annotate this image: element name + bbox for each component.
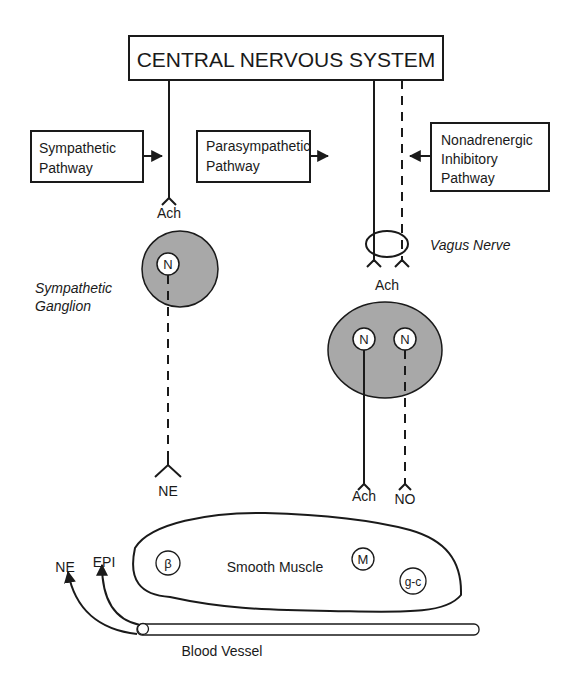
sympathetic-label-1: Sympathetic xyxy=(39,140,116,156)
svg-text:Nonadrenergic: Nonadrenergic xyxy=(441,132,533,148)
svg-text:Pathway: Pathway xyxy=(441,170,495,186)
ach-vagus-label: Ach xyxy=(375,277,399,293)
sympathetic-ganglion-label-1: Sympathetic xyxy=(35,280,112,296)
sympathetic-ganglion: N NE Sympathetic Ganglion xyxy=(35,231,218,499)
vagus-nerve-label: Vagus Nerve xyxy=(430,237,511,253)
sympathetic-ganglion-label-2: Ganglion xyxy=(35,298,91,314)
svg-text:N: N xyxy=(359,332,368,347)
sympathetic-label-2: Pathway xyxy=(39,160,93,176)
parasympathetic-ganglion: N N Ach NO xyxy=(328,302,442,507)
svg-text:N: N xyxy=(163,257,172,272)
svg-text:N: N xyxy=(400,332,409,347)
smooth-muscle-label: Smooth Muscle xyxy=(227,559,324,575)
cns-box: CENTRAL NERVOUS SYSTEM xyxy=(129,36,443,80)
epi-circulating-label: EPI xyxy=(93,554,116,570)
svg-text:g-c: g-c xyxy=(405,575,422,589)
ne-synapse-icon xyxy=(155,458,181,477)
no-terminal-label: NO xyxy=(395,491,416,507)
no-synapse-icon xyxy=(399,484,411,490)
svg-text:Pathway: Pathway xyxy=(206,158,260,174)
cns-title: CENTRAL NERVOUS SYSTEM xyxy=(137,48,436,71)
ach-sympathetic-label: Ach xyxy=(157,205,181,221)
svg-text:β: β xyxy=(164,556,171,571)
autonomic-innervation-diagram: CENTRAL NERVOUS SYSTEM Sympathetic Pathw… xyxy=(0,0,585,682)
parasympathetic-pathway: Parasympathetic Pathway xyxy=(197,80,374,262)
blood-vessel-label: Blood Vessel xyxy=(182,643,263,659)
nonadrenergic-inhibitory-pathway: Nonadrenergic Inhibitory Pathway xyxy=(402,80,549,262)
svg-text:Parasympathetic: Parasympathetic xyxy=(206,138,310,154)
ne-terminal-label: NE xyxy=(158,483,177,499)
sympathetic-synapse-icon xyxy=(162,198,176,205)
vagus-nerve: Vagus Nerve Ach xyxy=(366,231,511,293)
ach-terminal-label: Ach xyxy=(352,488,376,504)
smooth-muscle: β Smooth Muscle M g-c xyxy=(133,513,461,612)
sympathetic-pathway: Sympathetic Pathway Ach xyxy=(31,80,181,221)
svg-text:Inhibitory: Inhibitory xyxy=(441,151,498,167)
ne-circulating-label: NE xyxy=(55,559,74,575)
svg-text:M: M xyxy=(358,552,369,567)
